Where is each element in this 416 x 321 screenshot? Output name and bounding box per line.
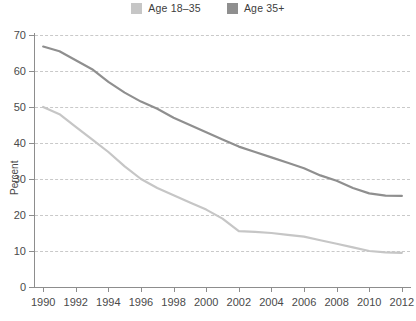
y-axis-tick bbox=[29, 287, 35, 288]
y-axis-label: 20 bbox=[0, 209, 26, 221]
x-axis-tick bbox=[174, 287, 175, 292]
legend-label-age-35-plus: Age 35+ bbox=[244, 3, 285, 14]
x-axis-label: 2000 bbox=[194, 296, 218, 308]
series-layer bbox=[35, 35, 410, 287]
y-axis-tick bbox=[29, 251, 35, 252]
x-axis-label: 1990 bbox=[31, 296, 55, 308]
x-axis-tick bbox=[76, 287, 77, 292]
y-axis-label: 30 bbox=[0, 173, 26, 185]
x-axis-tick bbox=[108, 287, 109, 292]
x-axis-tick bbox=[43, 287, 44, 292]
legend-item-age-35-plus: Age 35+ bbox=[227, 3, 285, 14]
x-axis-label: 2010 bbox=[357, 296, 381, 308]
x-axis-tick bbox=[337, 287, 338, 292]
y-axis-label: 70 bbox=[0, 29, 26, 41]
y-axis-tick bbox=[29, 143, 35, 144]
x-axis-label: 2012 bbox=[390, 296, 414, 308]
x-axis-tick bbox=[141, 287, 142, 292]
plot-area bbox=[35, 35, 410, 287]
legend-label-age-18-35: Age 18–35 bbox=[148, 3, 201, 14]
y-axis-label: 50 bbox=[0, 101, 26, 113]
y-axis-tick bbox=[29, 71, 35, 72]
y-axis-label: 10 bbox=[0, 245, 26, 257]
x-axis-line bbox=[34, 287, 411, 288]
series-line-age-18-35 bbox=[43, 107, 402, 253]
x-axis-tick bbox=[271, 287, 272, 292]
y-axis-label: 0 bbox=[0, 281, 26, 293]
x-axis-label: 2004 bbox=[259, 296, 283, 308]
y-axis-tick bbox=[29, 35, 35, 36]
legend-swatch-age-35-plus bbox=[227, 3, 238, 14]
x-axis-tick bbox=[369, 287, 370, 292]
x-axis-label: 2002 bbox=[227, 296, 251, 308]
x-axis-tick bbox=[402, 287, 403, 292]
x-axis-label: 1996 bbox=[129, 296, 153, 308]
chart-container: Age 18–35 Age 35+ Percent 01020304050607… bbox=[0, 0, 416, 321]
x-axis-tick bbox=[304, 287, 305, 292]
x-axis-label: 2006 bbox=[292, 296, 316, 308]
x-axis-label: 1994 bbox=[96, 296, 120, 308]
x-axis-tick bbox=[206, 287, 207, 292]
y-axis-tick bbox=[29, 179, 35, 180]
legend-swatch-age-18-35 bbox=[131, 3, 142, 14]
legend-item-age-18-35: Age 18–35 bbox=[131, 3, 201, 14]
x-axis-label: 2008 bbox=[324, 296, 348, 308]
y-axis-tick bbox=[29, 215, 35, 216]
y-axis-label: 40 bbox=[0, 137, 26, 149]
series-line-age-35-plus bbox=[43, 47, 402, 196]
x-axis-label: 1998 bbox=[161, 296, 185, 308]
y-axis-label: 60 bbox=[0, 65, 26, 77]
chart-legend: Age 18–35 Age 35+ bbox=[0, 0, 416, 16]
y-axis-tick bbox=[29, 107, 35, 108]
x-axis-tick bbox=[239, 287, 240, 292]
x-axis-label: 1992 bbox=[64, 296, 88, 308]
